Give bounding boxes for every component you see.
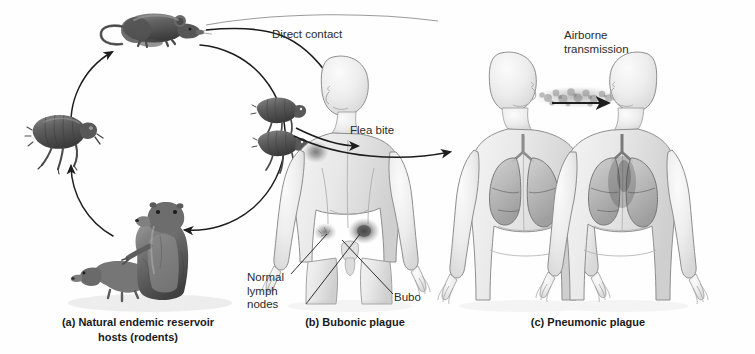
plague-transmission-figure: Direct contact Flea bite Airborne transm… <box>0 0 755 354</box>
hand-recipient-right <box>689 274 708 304</box>
caption-panel-c: (c) Pneumonic plague <box>513 315 663 330</box>
label-direct-contact: Direct contact <box>272 28 342 42</box>
caption-panel-b: (b) Bubonic plague <box>290 315 420 330</box>
prairie-dog-secondary <box>71 261 149 301</box>
respiratory-droplet-cloud <box>533 86 621 108</box>
hand-source-left <box>438 274 457 304</box>
direct-contact-arrow <box>206 15 438 78</box>
bubo-marker <box>348 218 380 244</box>
hand-recipient-left <box>536 272 555 302</box>
human-figure-bubonic <box>262 56 430 304</box>
illustration-layer <box>0 0 755 354</box>
ground-shadow-bc <box>288 300 688 312</box>
rat-illustration <box>101 14 212 48</box>
prairie-dog-illustration <box>71 202 188 301</box>
flea-illustration <box>25 115 103 174</box>
label-flea-bite: Flea bite <box>350 124 394 138</box>
hand-source-right <box>591 272 610 302</box>
caption-panel-a: (a) Natural endemic reservoir hosts (rod… <box>38 315 238 345</box>
label-airborne-transmission: Airborne transmission <box>564 29 629 56</box>
callout-bubo: Bubo <box>394 291 421 305</box>
callout-normal-lymph-nodes: Normal lymph nodes <box>247 271 284 312</box>
normal-lymph-node-marker <box>313 223 337 241</box>
